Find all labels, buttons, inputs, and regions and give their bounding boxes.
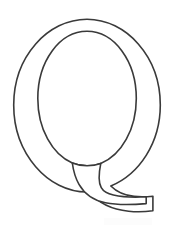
coloring-page-canvas bbox=[0, 0, 173, 236]
letter-q-inner-counter bbox=[38, 31, 137, 166]
letter-q-outline-artwork bbox=[0, 0, 173, 236]
